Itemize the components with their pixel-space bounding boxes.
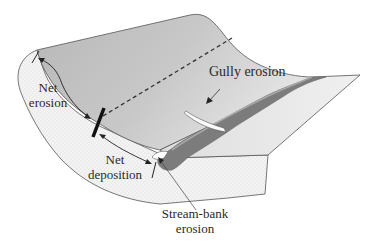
gully-erosion-label: Gully erosion <box>209 64 285 79</box>
stream-bank-erosion-label: Stream-bank erosion <box>150 206 240 236</box>
net-erosion-label: Net erosion <box>18 80 78 110</box>
net-deposition-label-line2: deposition <box>80 167 150 182</box>
net-deposition-label-line1: Net <box>80 152 150 167</box>
stream-bank-erosion-label-line2: erosion <box>150 221 240 236</box>
net-erosion-label-line1: Net <box>18 80 78 95</box>
net-deposition-label: Net deposition <box>80 152 150 182</box>
stream-bank-erosion-label-line1: Stream-bank <box>150 206 240 221</box>
net-erosion-label-line2: erosion <box>18 95 78 110</box>
